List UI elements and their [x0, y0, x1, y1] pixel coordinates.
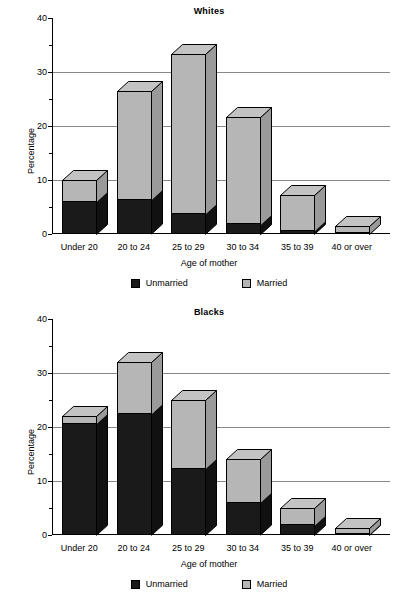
gridline-y-20	[52, 126, 390, 127]
bar-side-face	[260, 449, 272, 536]
bar-segment-unmarried	[63, 201, 96, 233]
y-tick-0	[48, 234, 52, 235]
chart-title-whites: Whites	[0, 6, 418, 16]
bar-front-face	[117, 362, 152, 535]
chart-panel-whites: Whites Percentage 010203040Under 2020 to…	[0, 0, 418, 301]
bar-segment-unmarried	[172, 213, 205, 233]
y-axis-label-blacks: Percentage	[26, 428, 36, 474]
legend-item-married: Married	[242, 579, 288, 589]
bar-side-face	[260, 107, 272, 235]
x-tick-label-4: 35 to 39	[281, 242, 314, 252]
bar-segment-married	[118, 92, 151, 201]
legend-blacks: Unmarried Married	[0, 579, 418, 589]
y-tick-label-20: 20	[37, 422, 47, 432]
legend-item-unmarried: Unmarried	[131, 579, 188, 589]
y-tick-label-20: 20	[37, 121, 47, 131]
bar-front-face	[171, 54, 206, 234]
bar-5	[335, 518, 380, 535]
bar-side-face	[205, 390, 217, 536]
y-tick-label-30: 30	[37, 368, 47, 378]
bar-segment-unmarried	[118, 199, 151, 233]
legend-label-married: Married	[257, 278, 288, 288]
x-tick-label-2: 25 to 29	[172, 242, 205, 252]
bar-front-face	[62, 416, 97, 535]
bar-side-face	[96, 406, 108, 536]
bar-segment-married	[63, 181, 96, 203]
legend-whites: Unmarried Married	[0, 278, 418, 288]
bar-front-face	[280, 195, 315, 234]
x-tick-label-1: 20 to 24	[117, 543, 150, 553]
chart-title-blacks: Blacks	[0, 307, 418, 317]
bar-0	[62, 406, 107, 535]
x-tick-label-3: 30 to 34	[226, 543, 259, 553]
bar-front-face	[171, 400, 206, 535]
x-tick-label-0: Under 20	[61, 543, 98, 553]
y-tick-label-40: 40	[37, 314, 47, 324]
y-axis-line	[52, 18, 53, 234]
bar-4	[280, 185, 325, 234]
y-tick-label-0: 0	[42, 229, 47, 239]
bar-segment-married	[227, 118, 260, 225]
bar-2	[171, 44, 216, 234]
x-tick-label-1: 20 to 24	[117, 242, 150, 252]
figure-root: Whites Percentage 010203040Under 2020 to…	[0, 0, 418, 602]
bar-1	[117, 352, 162, 535]
y-axis-label-whites: Percentage	[26, 127, 36, 173]
legend-label-unmarried: Unmarried	[146, 579, 188, 589]
legend-swatch-married-icon	[242, 279, 251, 288]
x-tick-label-5: 40 or over	[331, 242, 372, 252]
y-tick-label-30: 30	[37, 67, 47, 77]
legend-swatch-unmarried-icon	[131, 580, 140, 589]
plot-area-whites: 010203040Under 2020 to 2425 to 2930 to 3…	[52, 18, 390, 234]
x-tick-label-3: 30 to 34	[226, 242, 259, 252]
bar-segment-married	[281, 196, 314, 232]
bar-segment-married	[118, 363, 151, 415]
legend-swatch-married-icon	[242, 580, 251, 589]
gridline-y-30	[52, 72, 390, 73]
x-tick-label-2: 25 to 29	[172, 543, 205, 553]
legend-label-married: Married	[257, 579, 288, 589]
legend-item-unmarried: Unmarried	[131, 278, 188, 288]
y-axis-line	[52, 319, 53, 535]
x-tick-label-4: 35 to 39	[281, 543, 314, 553]
x-axis-label-whites: Age of mother	[0, 258, 418, 268]
bar-segment-married	[172, 55, 205, 215]
y-tick-label-10: 10	[37, 476, 47, 486]
y-tick-label-10: 10	[37, 175, 47, 185]
bar-2	[171, 390, 216, 535]
y-tick-label-40: 40	[37, 13, 47, 23]
x-axis-label-blacks: Age of mother	[0, 559, 418, 569]
bar-side-face	[151, 81, 163, 235]
x-axis-line	[52, 534, 390, 535]
bar-segment-unmarried	[172, 468, 205, 534]
bar-side-face	[205, 44, 217, 235]
bar-4	[280, 498, 325, 535]
bar-segment-unmarried	[281, 524, 314, 534]
bar-front-face	[280, 508, 315, 535]
bar-segment-married	[227, 460, 260, 503]
bar-segment-unmarried	[63, 423, 96, 534]
bar-side-face	[151, 352, 163, 536]
legend-label-unmarried: Unmarried	[146, 278, 188, 288]
bar-front-face	[117, 91, 152, 234]
bar-front-face	[226, 459, 261, 535]
bar-0	[62, 170, 107, 234]
bar-3	[226, 449, 271, 535]
plot-area-blacks: 010203040Under 2020 to 2425 to 2930 to 3…	[52, 319, 390, 535]
bar-segment-married	[172, 401, 205, 470]
bar-segment-unmarried	[227, 223, 260, 233]
bar-front-face	[226, 117, 261, 234]
bar-3	[226, 107, 271, 234]
bar-segment-unmarried	[227, 502, 260, 534]
y-tick-0	[48, 535, 52, 536]
x-tick-label-5: 40 or over	[331, 543, 372, 553]
legend-item-married: Married	[242, 278, 288, 288]
bar-5	[335, 216, 380, 234]
chart-panel-blacks: Blacks Percentage 010203040Under 2020 to…	[0, 301, 418, 602]
bar-1	[117, 81, 162, 234]
legend-swatch-unmarried-icon	[131, 279, 140, 288]
y-tick-label-0: 0	[42, 530, 47, 540]
gridline-y-30	[52, 373, 390, 374]
x-tick-label-0: Under 20	[61, 242, 98, 252]
bar-segment-unmarried	[118, 413, 151, 534]
